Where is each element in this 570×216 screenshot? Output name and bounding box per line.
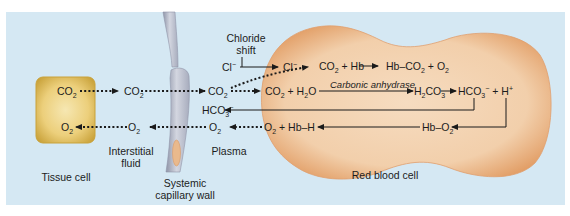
rxn-hbo2: Hb–O2	[422, 121, 453, 133]
plasma-o2: O2	[209, 121, 221, 133]
red-blood-cell-label: Red blood cell	[345, 169, 425, 181]
rxn-hb-co2-o2: Hb–CO2 + O2	[386, 60, 449, 72]
capillary-nucleus	[173, 140, 181, 166]
interstitial-fluid-label: Interstitial fluid	[103, 145, 159, 169]
rxn-o2-hbh: O2 + Hb–H	[264, 121, 315, 133]
plasma-co2: CO2	[208, 85, 228, 97]
plasma-label: Plasma	[207, 145, 251, 157]
chloride-shift-label: Chloride shift	[224, 32, 268, 56]
plasma-chloride: Cl−	[222, 61, 236, 73]
rxn-h2co3: H2CO3	[414, 85, 445, 97]
interstitial-o2: O2	[128, 121, 140, 133]
rxn-co2-hb: CO2 + Hb	[319, 60, 364, 72]
capillary-wall-upper	[163, 12, 178, 67]
carbonic-anhydrase-label: Carbonic anhydrase	[330, 79, 415, 91]
rxn-co2-h2o: CO2 + H2O	[265, 85, 316, 97]
rxn-hco3-h: HCO3− + H+	[458, 85, 513, 97]
rbc-chloride: Cl−	[283, 61, 297, 73]
tissue-cell-label: Tissue cell	[37, 171, 95, 183]
tissue-co2: CO2	[57, 85, 77, 97]
plasma-hco3: HCO3−	[202, 104, 233, 116]
interstitial-co2: CO2	[124, 85, 144, 97]
red-blood-cell	[261, 26, 551, 179]
capillary-wall-label: Systemic capillary wall	[150, 177, 220, 201]
diagram-artwork	[0, 0, 570, 216]
tissue-o2: O2	[61, 121, 73, 133]
